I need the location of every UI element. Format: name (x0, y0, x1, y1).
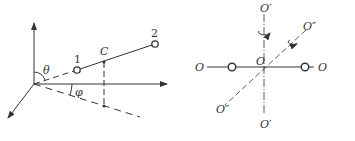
o-left-label: O (195, 61, 204, 74)
diagram-canvas: 1 2 C θ φ O O O O′ O′ O″ O″ (0, 0, 355, 141)
o-right-label: O (318, 61, 327, 74)
projection-point (103, 105, 106, 108)
phi-label: φ (75, 86, 83, 99)
o-dprime-top-label: O″ (303, 20, 317, 33)
atom-1 (74, 67, 80, 73)
atom-left (228, 63, 236, 71)
diagram-svg: 1 2 C θ φ O O O O′ O′ O″ O″ (0, 0, 355, 141)
theta-label: θ (43, 64, 50, 77)
molecule-axis-dashed (34, 70, 77, 84)
atom-2 (152, 41, 158, 47)
y-axis (8, 84, 34, 118)
left-diagram: 1 2 C θ φ (8, 23, 167, 118)
molecule-bond (77, 44, 155, 70)
projection-line (34, 84, 140, 117)
center-label: C (100, 45, 109, 58)
atom-1-label: 1 (74, 53, 81, 66)
center-of-mass (103, 61, 106, 64)
o-prime-bottom-label: O′ (260, 118, 272, 131)
o-dprime-bottom-label: O″ (216, 103, 230, 116)
atom-2-label: 2 (151, 27, 158, 40)
atom-right (301, 63, 309, 71)
o-prime-top-label: O′ (260, 2, 272, 15)
right-diagram: O O O O′ O′ O″ O″ (195, 2, 327, 131)
phi-arc (70, 84, 72, 95)
o-center-label: O (256, 55, 265, 68)
